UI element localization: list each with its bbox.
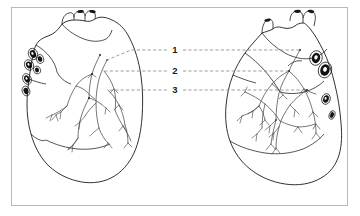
figure-root: 1 2 3 — [0, 0, 360, 216]
heart-left-anterior — [21, 10, 143, 183]
label-2: 2 — [172, 65, 177, 76]
label-3: 3 — [172, 84, 177, 95]
left-heart-outline — [27, 17, 143, 182]
label-1: 1 — [172, 44, 178, 55]
heart-diagram-illustration: 1 2 3 — [0, 0, 360, 216]
heart-right-posterior — [226, 9, 342, 185]
number-labels-group: 1 2 3 — [172, 44, 178, 95]
